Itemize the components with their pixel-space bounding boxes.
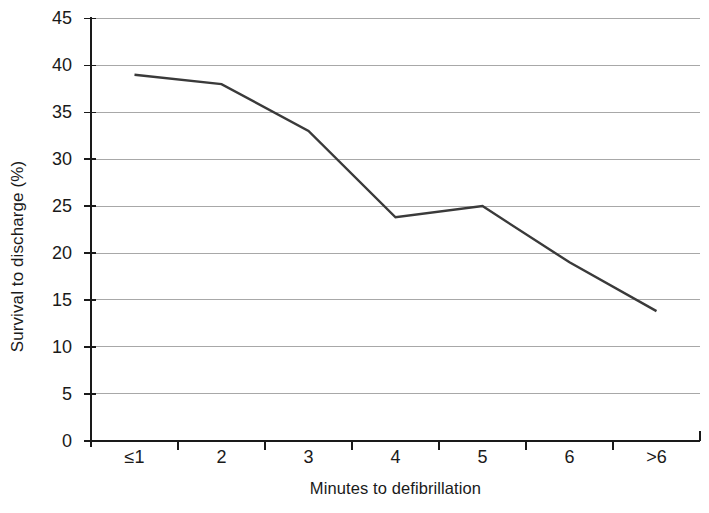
gridlines: [91, 19, 700, 394]
data-series-line: [135, 75, 657, 311]
survival-defibrillation-line-chart: Survival to discharge (%) 45 40 35 30 25…: [0, 0, 709, 513]
plot-area: [0, 0, 709, 513]
